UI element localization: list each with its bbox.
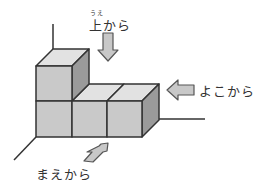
- depth-axis: [14, 137, 36, 160]
- arrow-diagonal-icon: [84, 143, 108, 162]
- side-view-label: よこから: [199, 81, 255, 100]
- top-view-label: 上から: [89, 15, 131, 34]
- arrow-down-icon: [98, 33, 118, 61]
- arrow-left-icon: [167, 80, 194, 100]
- cube-front-face: [36, 101, 72, 137]
- cube-front-face: [107, 101, 142, 137]
- front-view-label: まえから: [36, 164, 92, 183]
- cube-front-face: [36, 66, 72, 101]
- cube-front-face: [72, 101, 107, 137]
- cube-stack: [36, 49, 159, 137]
